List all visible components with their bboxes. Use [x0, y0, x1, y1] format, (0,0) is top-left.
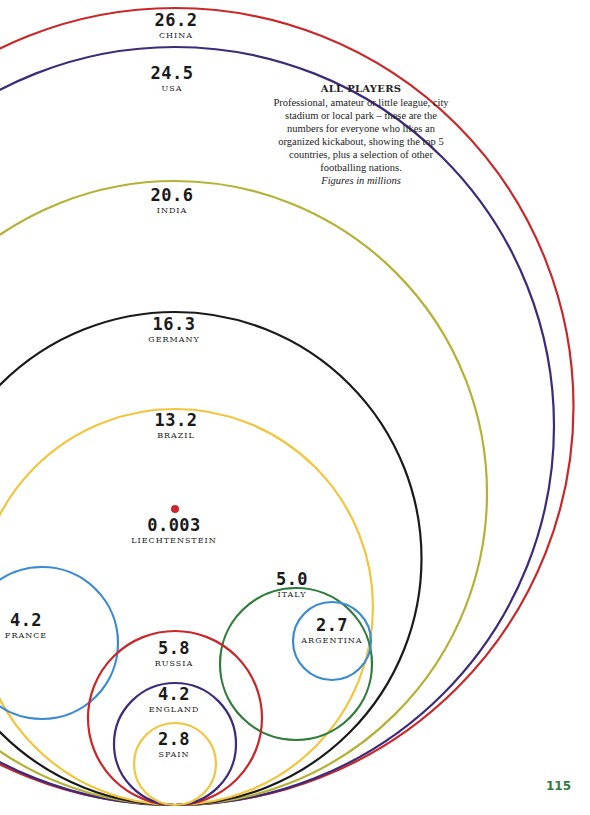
value-china: 26.2 [155, 12, 198, 29]
country-germany: GERMANY [148, 335, 200, 345]
circle-germany [0, 312, 422, 805]
label-liechtenstein: 0.003 LIECHTENSTEIN [131, 517, 216, 546]
intro-body: Professional, amateur or little league, … [268, 96, 454, 174]
label-argentina: 2.7 ARGENTINA [301, 617, 362, 646]
label-england: 4.2 ENGLAND [149, 686, 200, 715]
intro-heading: ALL PLAYERS [268, 82, 454, 95]
page-number: 115 [546, 779, 571, 793]
country-india: INDIA [151, 206, 194, 216]
country-russia: RUSSIA [155, 659, 194, 669]
value-italy: 5.0 [276, 571, 308, 588]
circle-france [0, 567, 118, 719]
value-india: 20.6 [151, 187, 194, 204]
country-france: FRANCE [5, 631, 47, 641]
value-russia: 5.8 [155, 640, 194, 657]
label-brazil: 13.2 BRAZIL [155, 412, 198, 441]
value-usa: 24.5 [151, 65, 194, 82]
country-spain: SPAIN [158, 750, 190, 760]
liechtenstein-dot [171, 505, 179, 513]
value-england: 4.2 [149, 686, 200, 703]
label-russia: 5.8 RUSSIA [155, 640, 194, 669]
label-india: 20.6 INDIA [151, 187, 194, 216]
country-argentina: ARGENTINA [301, 636, 362, 646]
label-spain: 2.8 SPAIN [158, 731, 190, 760]
value-argentina: 2.7 [301, 617, 362, 634]
label-china: 26.2 CHINA [155, 12, 198, 41]
country-usa: USA [151, 84, 194, 94]
label-germany: 16.3 GERMANY [148, 316, 200, 345]
country-italy: ITALY [276, 590, 308, 600]
country-liechtenstein: LIECHTENSTEIN [131, 536, 216, 546]
value-germany: 16.3 [148, 316, 200, 333]
intro-note: Figures in millions [268, 174, 454, 187]
value-spain: 2.8 [158, 731, 190, 748]
country-brazil: BRAZIL [155, 431, 198, 441]
label-usa: 24.5 USA [151, 65, 194, 94]
intro-text-block: ALL PLAYERS Professional, amateur or lit… [268, 82, 454, 187]
country-china: CHINA [155, 31, 198, 41]
value-brazil: 13.2 [155, 412, 198, 429]
value-france: 4.2 [5, 612, 47, 629]
value-liechtenstein: 0.003 [131, 517, 216, 534]
label-italy: 5.0 ITALY [276, 571, 308, 600]
label-france: 4.2 FRANCE [5, 612, 47, 641]
country-england: ENGLAND [149, 705, 200, 715]
